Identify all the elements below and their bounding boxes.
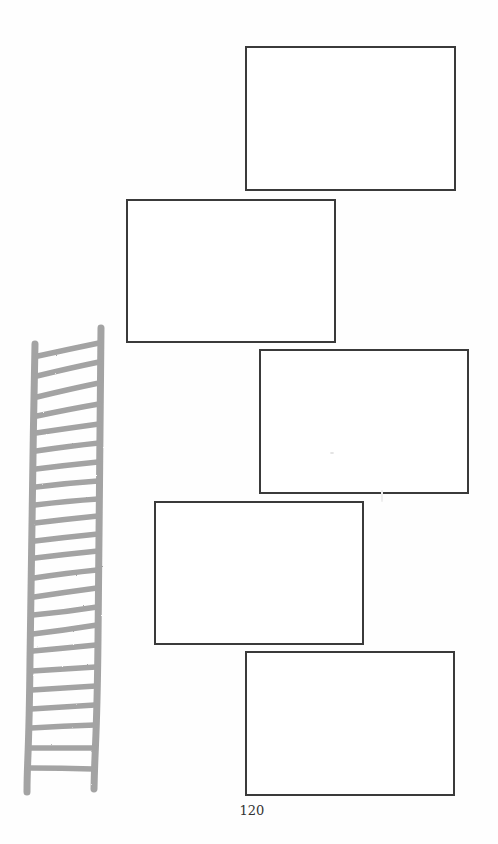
drawing-frame-1	[245, 46, 456, 191]
paper-smudge	[381, 490, 383, 502]
drawing-frame-2	[126, 199, 336, 343]
ladder-right-rail	[94, 328, 101, 789]
ladder-left-rail	[27, 344, 35, 792]
page-number: 120	[0, 803, 498, 818]
paper-smudge	[330, 452, 334, 454]
drawing-frame-3	[259, 349, 469, 494]
ladder-illustration	[0, 0, 130, 844]
workbook-page: 120	[0, 0, 498, 844]
ladder-rungs	[30, 343, 99, 769]
drawing-frame-5	[245, 651, 455, 796]
drawing-frame-4	[154, 501, 364, 645]
